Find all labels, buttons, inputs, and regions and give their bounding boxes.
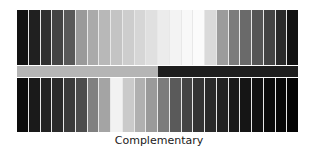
top-swatch — [135, 10, 147, 65]
bottom-swatch — [170, 78, 182, 132]
top-swatch — [170, 10, 182, 65]
top-swatch — [252, 10, 264, 65]
bottom-swatch — [88, 78, 100, 132]
top-swatch — [264, 10, 276, 65]
bottom-swatch — [287, 78, 298, 132]
bottom-swatch — [264, 78, 276, 132]
top-swatch — [217, 10, 229, 65]
bottom-swatch — [182, 78, 194, 132]
top-swatch — [76, 10, 88, 65]
top-swatch — [182, 10, 194, 65]
top-swatch-row — [17, 10, 298, 65]
bottom-swatch — [146, 78, 158, 132]
bottom-swatch — [193, 78, 205, 132]
top-swatch — [287, 10, 298, 65]
top-swatch — [29, 10, 41, 65]
bottom-swatch — [276, 78, 288, 132]
top-swatch — [229, 10, 241, 65]
top-swatch — [111, 10, 123, 65]
bottom-swatch — [229, 78, 241, 132]
top-swatch — [99, 10, 111, 65]
top-swatch — [52, 10, 64, 65]
top-swatch — [123, 10, 135, 65]
bottom-swatch — [240, 78, 252, 132]
bottom-swatch-row — [17, 78, 298, 132]
top-swatch — [158, 10, 170, 65]
bottom-swatch — [76, 78, 88, 132]
bottom-swatch — [252, 78, 264, 132]
bottom-swatch — [64, 78, 76, 132]
bottom-swatch — [123, 78, 135, 132]
bottom-swatch — [205, 78, 217, 132]
bottom-swatch — [52, 78, 64, 132]
top-swatch — [17, 10, 29, 65]
band-light-segment — [17, 66, 158, 77]
bottom-swatch — [158, 78, 170, 132]
bottom-swatch — [29, 78, 41, 132]
bottom-swatch — [111, 78, 123, 132]
top-swatch — [240, 10, 252, 65]
bottom-swatch — [135, 78, 147, 132]
top-swatch — [193, 10, 205, 65]
top-swatch — [64, 10, 76, 65]
middle-contrast-band — [17, 66, 298, 77]
band-dark-segment — [158, 66, 298, 77]
top-swatch — [276, 10, 288, 65]
top-swatch — [146, 10, 158, 65]
bottom-swatch — [217, 78, 229, 132]
bottom-swatch — [41, 78, 53, 132]
top-swatch — [41, 10, 53, 65]
bottom-swatch — [99, 78, 111, 132]
top-swatch — [88, 10, 100, 65]
bottom-swatch — [17, 78, 29, 132]
top-swatch — [205, 10, 217, 65]
diagram-caption: Complementary — [0, 134, 318, 147]
